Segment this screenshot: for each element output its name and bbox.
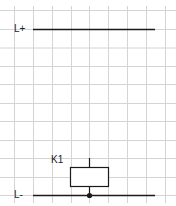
rail-label-positive: L+ — [14, 24, 25, 34]
junction-dot — [87, 193, 92, 198]
wires — [33, 30, 155, 199]
component-label-k1: K1 — [51, 155, 63, 165]
rail-label-negative: L- — [14, 190, 23, 200]
relay-coil-k1[interactable] — [71, 168, 109, 187]
schematic-canvas — [0, 0, 176, 206]
